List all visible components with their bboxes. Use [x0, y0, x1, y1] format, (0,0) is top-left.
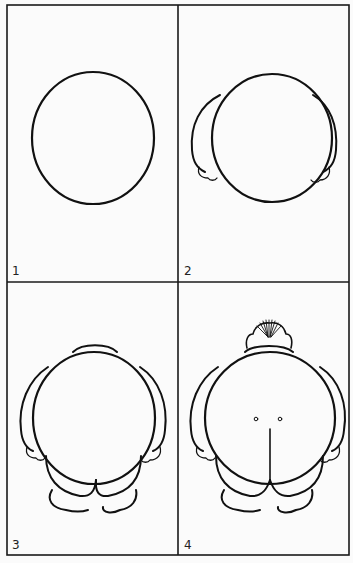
panel-label-1: 1	[12, 264, 20, 278]
right-foot	[278, 490, 312, 512]
panel-label-4: 4	[184, 538, 192, 552]
left-dimple	[254, 417, 258, 421]
body-circle	[32, 72, 154, 204]
right-leg	[96, 456, 141, 496]
panel-4: 4	[184, 320, 345, 552]
right-dimple	[278, 417, 282, 421]
panel-label-2: 2	[184, 264, 192, 278]
body-circle	[33, 352, 155, 484]
left-leg	[46, 456, 96, 496]
panel-label-3: 3	[12, 538, 20, 552]
left-arm	[190, 367, 218, 451]
drawing-steps-figure: 1 2 3	[0, 0, 353, 563]
hair-strands	[257, 320, 281, 337]
panel-3: 3	[12, 345, 166, 552]
body-circle	[212, 74, 332, 202]
panel-2: 2	[184, 74, 336, 278]
right-leg	[270, 456, 323, 496]
panel-1: 1	[12, 72, 154, 278]
